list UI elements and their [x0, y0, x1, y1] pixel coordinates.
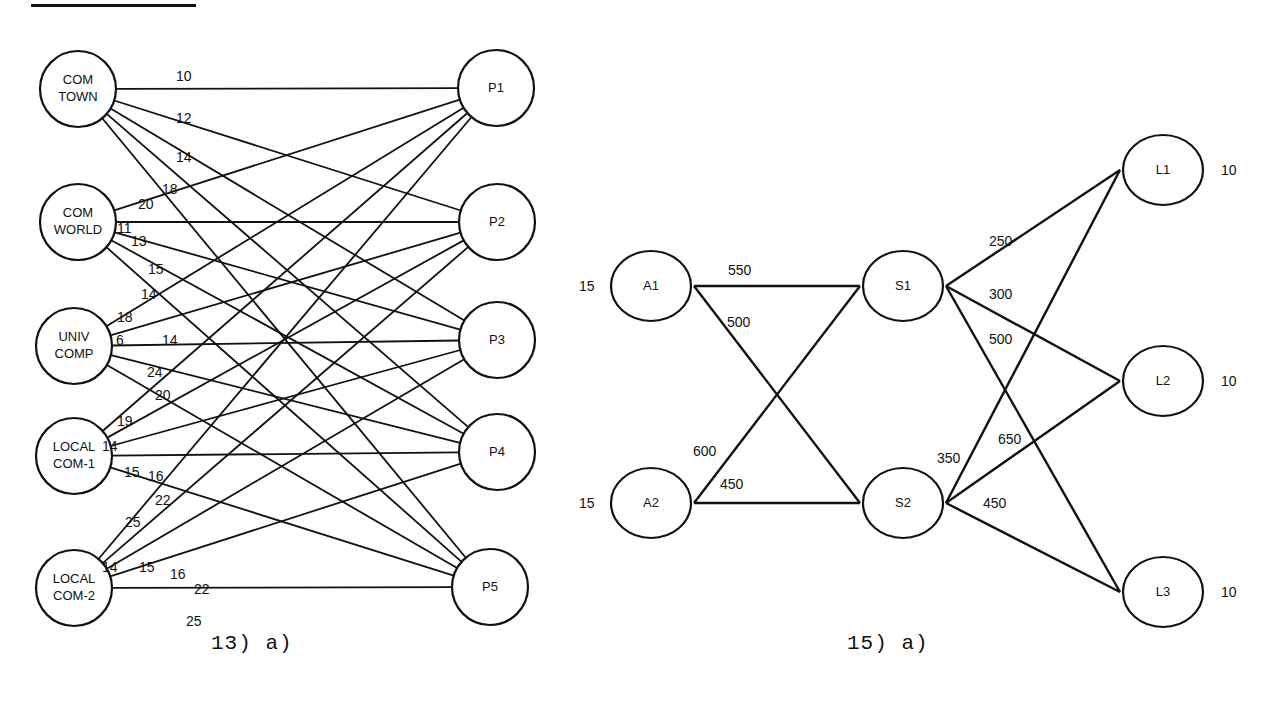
cost-label: 13 [131, 233, 147, 249]
destination-node-p4: P4 [459, 414, 535, 490]
cost-label: 11 [117, 220, 132, 236]
cost-label: 24 [147, 364, 163, 380]
diagrams-canvas: COMTOWNCOMWORLDUNIVCOMPLOCALCOM-1LOCALCO… [0, 0, 1268, 724]
cost-label: 25 [186, 613, 202, 629]
source-node-cw: COMWORLD [40, 184, 116, 260]
edge-uc-p2 [111, 233, 461, 336]
cost-label: 500 [989, 331, 1013, 347]
cost-label: 500 [727, 314, 751, 330]
cost-label: 450 [983, 495, 1007, 511]
demand-value: 10 [1221, 373, 1237, 389]
node-label: S1 [895, 278, 911, 293]
destination-node-p2: P2 [459, 184, 535, 260]
edge-S2-L1 [946, 170, 1120, 503]
edge-l1-p4 [112, 452, 459, 455]
cost-label: 14 [102, 438, 118, 454]
source-node-uc: UNIVCOMP [36, 308, 112, 384]
node-L1: L110 [1123, 135, 1237, 205]
node-S1: S1 [863, 251, 943, 321]
edge-l2-p5 [112, 587, 452, 588]
cost-labels-13a: 1012141820111315141861424201914151622251… [102, 68, 210, 629]
cost-label: 15 [124, 464, 140, 480]
node-label: COMP [55, 346, 94, 361]
cost-label: 10 [176, 68, 192, 84]
caption-13a: 13) a) [211, 632, 293, 655]
node-label: COM [63, 72, 93, 87]
source-node-l2: LOCALCOM-2 [36, 550, 112, 626]
edges-13a [99, 88, 472, 588]
node-label: LOCAL [53, 439, 96, 454]
node-label: A2 [643, 495, 659, 510]
edge-uc-p1 [106, 108, 463, 326]
edge-S2-L2 [946, 381, 1120, 503]
cost-label: 650 [998, 431, 1022, 447]
node-label: P1 [488, 80, 504, 95]
source-node-l1: LOCALCOM-1 [36, 418, 112, 494]
node-label: P5 [482, 579, 498, 594]
cost-label: 300 [989, 286, 1013, 302]
node-label: P2 [489, 214, 505, 229]
transportation-network-13a: COMTOWNCOMWORLDUNIVCOMPLOCALCOM-1LOCALCO… [36, 50, 535, 629]
node-label: P3 [489, 332, 505, 347]
transshipment-network-15a: A115A215S1S2L110L210L310 550500600450250… [579, 135, 1237, 627]
cost-label: 22 [194, 581, 210, 597]
node-label: COM-2 [53, 588, 95, 603]
node-label: P4 [489, 444, 505, 459]
cost-label: 350 [937, 450, 961, 466]
cost-label: 450 [720, 476, 744, 492]
cost-label: 18 [117, 309, 133, 325]
node-label: S2 [895, 495, 911, 510]
demand-value: 10 [1221, 584, 1237, 600]
edge-S1-L1 [946, 170, 1120, 286]
cost-label: 20 [138, 196, 154, 212]
node-label: A1 [643, 278, 659, 293]
destination-node-p1: P1 [458, 50, 534, 126]
caption-15a: 15) a) [847, 632, 929, 655]
cost-labels-15a: 550500600450250300500350650450 [693, 233, 1022, 511]
cost-label: 16 [148, 468, 164, 484]
cost-label: 250 [989, 233, 1013, 249]
node-label: WORLD [54, 222, 102, 237]
cost-label: 18 [162, 181, 178, 197]
cost-label: 25 [125, 514, 141, 530]
node-label: COM-1 [53, 456, 95, 471]
cost-label: 600 [693, 443, 717, 459]
edge-cw-p3 [115, 232, 461, 329]
nodes-15a: A115A215S1S2L110L210L310 [579, 135, 1237, 627]
node-label: UNIV [58, 329, 89, 344]
edge-S1-L3 [946, 286, 1120, 592]
node-label: LOCAL [53, 571, 96, 586]
node-S2: S2 [863, 468, 943, 538]
source-node-ct: COMTOWN [40, 51, 116, 127]
cost-label: 15 [148, 261, 164, 277]
node-label: L3 [1156, 584, 1170, 599]
cost-label: 14 [162, 332, 178, 348]
cost-label: 12 [176, 110, 192, 126]
node-label: COM [63, 205, 93, 220]
node-label: L2 [1156, 373, 1170, 388]
node-label: L1 [1156, 162, 1170, 177]
node-A2: A215 [579, 468, 691, 538]
cost-label: 14 [176, 149, 192, 165]
cost-label: 19 [117, 413, 133, 429]
demand-value: 10 [1221, 162, 1237, 178]
cost-label: 22 [155, 492, 171, 508]
destination-node-p3: P3 [459, 302, 535, 378]
node-L3: L310 [1123, 557, 1237, 627]
supply-value: 15 [579, 278, 595, 294]
node-A1: A115 [579, 251, 691, 321]
edge-ct-p1 [116, 88, 458, 89]
node-label: TOWN [58, 89, 97, 104]
cost-label: 15 [139, 559, 155, 575]
cost-label: 16 [170, 566, 186, 582]
cost-label: 14 [102, 559, 118, 575]
supply-value: 15 [579, 495, 595, 511]
destination-node-p5: P5 [452, 549, 528, 625]
cost-label: 14 [141, 286, 157, 302]
cost-label: 20 [155, 387, 171, 403]
cost-label: 6 [116, 332, 124, 348]
cost-label: 550 [728, 262, 752, 278]
node-L2: L210 [1123, 346, 1237, 416]
